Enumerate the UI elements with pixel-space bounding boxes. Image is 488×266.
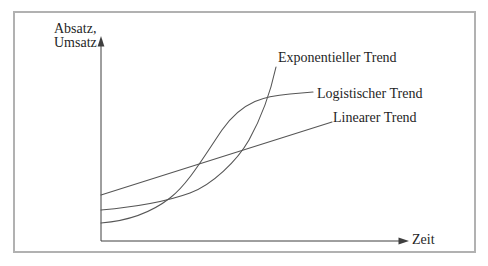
curve-linear xyxy=(101,122,332,195)
curve-exponential xyxy=(101,67,276,210)
y-axis-label-line1: Absatz, xyxy=(54,22,97,36)
curve-label-logistic: Logistischer Trend xyxy=(317,87,422,101)
curve-label-exponential: Exponentieller Trend xyxy=(278,51,397,65)
scanned-figure: Absatz, Umsatz Exponentieller Trend Logi… xyxy=(0,0,488,266)
y-axis-label-line2: Umsatz xyxy=(54,36,97,50)
curve-label-linear: Linearer Trend xyxy=(333,111,417,125)
x-axis-label: Zeit xyxy=(412,233,435,247)
x-axis-arrowhead-icon xyxy=(399,238,410,245)
curve-logistic xyxy=(101,92,313,223)
y-axis-label: Absatz, Umsatz xyxy=(54,22,97,50)
y-axis-arrowhead-icon xyxy=(98,36,105,47)
